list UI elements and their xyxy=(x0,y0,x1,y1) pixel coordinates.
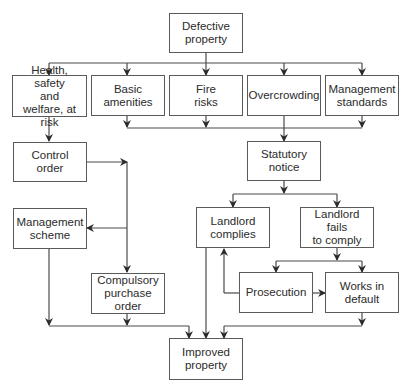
node-improved-property: Improved property xyxy=(169,338,243,380)
node-landlord-fails-to-comply: Landlord fails to comply xyxy=(300,207,374,248)
node-label: Statutory notice xyxy=(261,148,307,174)
node-label: Management standards xyxy=(328,83,395,109)
node-basic-amenities: Basic amenities xyxy=(91,75,165,116)
node-label: Management scheme xyxy=(16,216,83,242)
node-label: Works in default xyxy=(340,280,385,306)
node-management-scheme: Management scheme xyxy=(13,208,87,249)
node-statutory-notice: Statutory notice xyxy=(247,141,321,181)
node-label: Landlord complies xyxy=(210,215,255,241)
node-label: Control order xyxy=(31,149,68,175)
node-label: Health, safety and welfare, at risk xyxy=(15,64,84,129)
node-works-in-default: Works in default xyxy=(325,272,399,313)
node-label: Overcrowding xyxy=(249,89,320,102)
node-label: Improved property xyxy=(182,346,230,372)
node-control-order: Control order xyxy=(13,142,87,182)
node-management-standards: Management standards xyxy=(325,75,399,116)
node-label: Fire risks xyxy=(194,83,218,109)
node-overcrowding: Overcrowding xyxy=(247,75,321,116)
node-label: Defective property xyxy=(182,20,230,46)
flowchart: Defective property Health, safety and we… xyxy=(0,0,411,390)
node-label: Landlord fails to comply xyxy=(303,208,371,247)
node-fire-risks: Fire risks xyxy=(169,75,243,116)
node-compulsory-purchase-order: Compulsory purchase order xyxy=(91,273,165,314)
node-prosecution: Prosecution xyxy=(239,272,313,313)
node-label: Basic amenities xyxy=(103,83,152,109)
node-health-safety-welfare: Health, safety and welfare, at risk xyxy=(12,75,87,117)
node-label: Compulsory purchase order xyxy=(97,274,158,313)
connector-lines xyxy=(0,0,411,390)
node-landlord-complies: Landlord complies xyxy=(196,207,270,248)
node-label: Prosecution xyxy=(246,286,307,299)
node-defective-property: Defective property xyxy=(169,13,243,53)
